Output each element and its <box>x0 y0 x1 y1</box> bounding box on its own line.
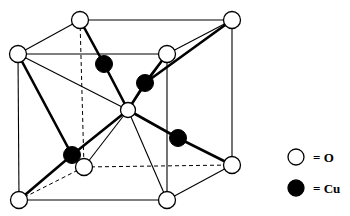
copper-atom <box>96 56 113 73</box>
oxygen-atom <box>10 46 27 63</box>
crystal-structure-canvas: = O= Cu <box>0 0 350 216</box>
copper-atom <box>170 130 187 147</box>
legend-marker-copper <box>288 180 304 196</box>
oxygen-atom <box>72 12 89 29</box>
oxygen-atom <box>76 159 93 176</box>
legend-marker-oxygen <box>288 149 304 165</box>
legend-label-copper: = Cu <box>313 181 340 196</box>
oxygen-atom <box>159 46 176 63</box>
copper-atom <box>137 75 154 92</box>
oxygen-atom <box>224 12 241 29</box>
legend-label-oxygen: = O <box>313 150 334 165</box>
crystal-structure-figure: = O= Cu <box>0 0 350 216</box>
oxygen-atom <box>121 103 136 118</box>
oxygen-atom <box>11 192 28 209</box>
oxygen-atom <box>159 192 176 209</box>
oxygen-atom <box>224 157 241 174</box>
